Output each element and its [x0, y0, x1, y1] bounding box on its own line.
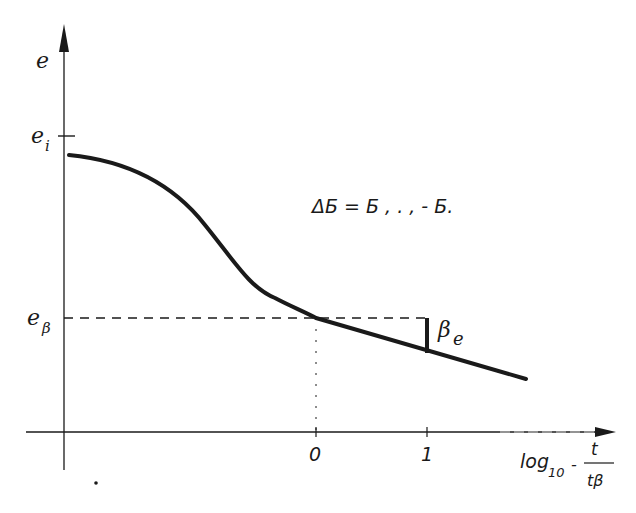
x-label-log-sub: 10 — [548, 465, 565, 480]
x-axis-label: log 10 - t tβ — [520, 439, 614, 490]
ei-sub: i — [45, 137, 50, 155]
stray-dot — [94, 481, 98, 485]
beta-e-label: β e — [437, 317, 464, 349]
x-tick-label-1: 1 — [421, 443, 433, 465]
x-label-frac-den: tβ — [587, 471, 603, 490]
diagram-canvas: e e i e β 0 1 log 10 - t tβ β e ΔБ = Б ,… — [0, 0, 636, 513]
delta-sigma-annotation: ΔБ = Б , . , - Б. — [310, 195, 453, 217]
ebeta-base: e — [27, 305, 40, 330]
beta-base: β — [437, 317, 451, 342]
ei-base: e — [31, 123, 44, 148]
x-tick-label-0: 0 — [309, 443, 321, 465]
x-label-log: log — [520, 450, 549, 472]
x-axis-arrow-icon — [595, 427, 616, 437]
x-axis — [26, 427, 616, 437]
ebeta-sub: β — [41, 319, 51, 337]
y-tick-label-ebeta: e β — [27, 305, 51, 337]
y-axis-label: e — [36, 48, 49, 73]
beta-sub: e — [453, 328, 464, 349]
y-axis-arrow-icon — [59, 24, 69, 52]
y-axis — [58, 24, 75, 470]
x-label-frac-num: t — [591, 439, 599, 459]
x-label-dash: - — [571, 455, 577, 474]
y-tick-label-ei: e i — [31, 123, 50, 155]
